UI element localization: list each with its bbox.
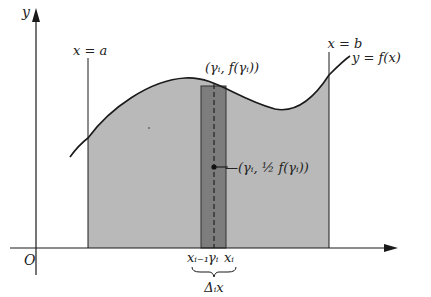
- left-tick-label: xᵢ₋₁: [187, 250, 209, 265]
- top-point-label: (γᵢ, f(γᵢ)): [205, 60, 259, 75]
- width-label: Δᵢx: [203, 280, 224, 295]
- x-axis-arrow-icon: [384, 244, 398, 252]
- center-tick-label: γᵢ: [208, 250, 219, 265]
- speck: [148, 127, 150, 129]
- origin-label: O: [24, 252, 36, 268]
- x-equals-a-label: x = a: [73, 43, 107, 58]
- midpoint-dot: [211, 164, 216, 169]
- curve-label: y = f(x): [351, 50, 401, 65]
- x-equals-b-label: x = b: [328, 36, 363, 51]
- width-brace: [192, 267, 236, 277]
- y-axis-label: y: [21, 4, 31, 20]
- riemann-area-diagram: y O x = a x = b y = f(x) (γᵢ, f(γᵢ)) —(γ…: [0, 0, 431, 297]
- y-axis-arrow-icon: [32, 8, 40, 22]
- right-tick-label: xᵢ: [224, 250, 234, 265]
- mid-point-label: —(γᵢ, ½ f(γᵢ)): [225, 160, 309, 175]
